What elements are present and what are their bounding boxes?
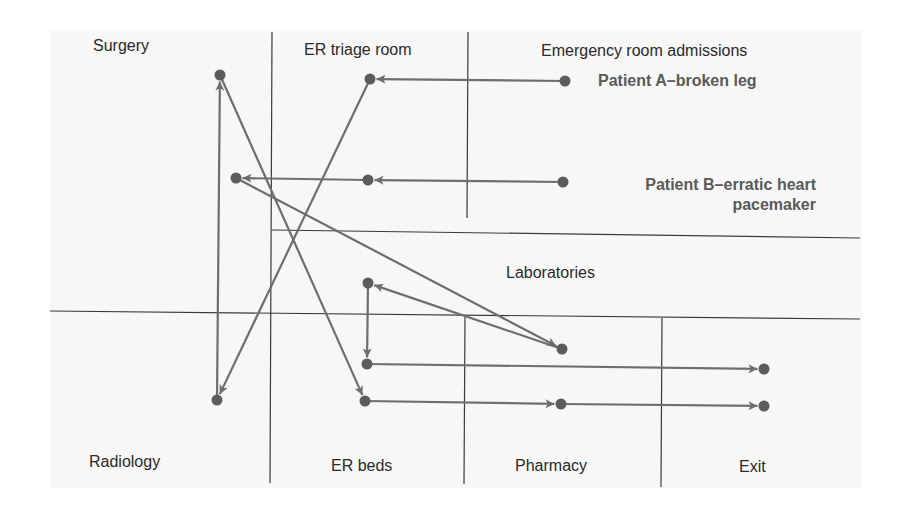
node-triage-a: [365, 74, 376, 85]
node-exit-b: [759, 364, 770, 375]
node-admit-a: [560, 76, 571, 87]
grid-line: [464, 316, 465, 484]
patient-a-label: Patient A–broken leg: [598, 71, 757, 91]
node-admit-b: [558, 177, 569, 188]
area-label-er-beds: ER beds: [331, 458, 392, 474]
flow-arrow-patient-a: [217, 82, 220, 401]
area-label-exit: Exit: [739, 459, 766, 475]
area-label-pharmacy: Pharmacy: [515, 458, 587, 474]
flow-arrow-patient-a: [365, 401, 555, 404]
department-grid-lines: [50, 32, 860, 487]
flow-arrow-patient-a: [377, 79, 566, 81]
flow-arrow-patient-b: [367, 283, 368, 358]
node-surgery-a: [215, 70, 226, 81]
area-label-surgery: Surgery: [93, 38, 149, 54]
area-label-radiology: Radiology: [89, 454, 160, 470]
patient-flow-arrows: [217, 75, 758, 406]
patient-b-label-line1: Patient B–erratic heart: [594, 175, 816, 195]
area-label-admissions: Emergency room admissions: [541, 43, 747, 59]
grid-line: [272, 230, 860, 238]
node-beds-b2: [362, 359, 373, 370]
node-radiology-a: [212, 395, 223, 406]
node-triage-b: [363, 175, 374, 186]
flow-arrow-patient-b: [375, 180, 564, 182]
grid-line: [270, 32, 272, 483]
node-surgery-b: [231, 173, 242, 184]
er-flow-diagram: Surgery ER triage room Emergency room ad…: [0, 0, 910, 513]
grid-line: [467, 32, 468, 218]
flow-nodes: [212, 70, 770, 412]
flow-arrow-patient-b: [243, 178, 369, 180]
node-labs-b: [557, 344, 568, 355]
patient-b-label: Patient B–erratic heart pacemaker: [594, 175, 816, 215]
flow-canvas: [0, 0, 910, 513]
flow-arrow-patient-a: [561, 404, 758, 406]
area-label-laboratories: Laboratories: [506, 265, 595, 281]
grid-line: [661, 318, 662, 487]
flow-arrow-patient-b: [367, 364, 758, 369]
node-beds-b1: [363, 278, 374, 289]
area-label-er-triage: ER triage room: [304, 42, 412, 58]
flow-arrow-patient-b: [374, 285, 562, 349]
node-beds-a: [360, 396, 371, 407]
node-exit-a: [759, 401, 770, 412]
flow-arrow-patient-b: [236, 178, 556, 346]
node-pharmacy-a: [556, 399, 567, 410]
patient-b-label-line2: pacemaker: [594, 195, 816, 215]
